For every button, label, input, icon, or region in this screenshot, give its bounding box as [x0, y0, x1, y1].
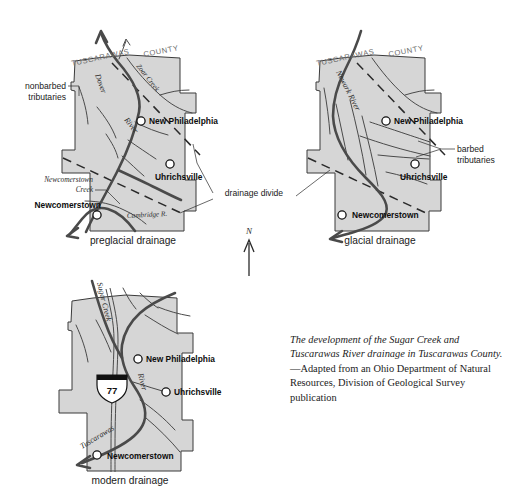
city-label-uhrichsville-modern: Uhrichsville: [174, 387, 222, 397]
annotation-drainage-divide: drainage divide: [225, 188, 284, 198]
city-label-uhrichsville-glacial: Uhrichsville: [400, 172, 448, 182]
city-label-new-philadelphia-modern: New Philadelphia: [146, 354, 215, 364]
annotation-nonbarbed-line2: tributaries: [28, 92, 66, 102]
panel-label-preglacial: preglacial drainage: [90, 235, 176, 246]
city-label-newcomerstown-glacial: Newcomerstown: [352, 210, 419, 220]
city-label-new-philadelphia-glacial: New Philadelphia: [394, 116, 463, 126]
panel-glacial: New Philadelphia Uhrichsville Newcomerst…: [307, 31, 495, 246]
city-label-uhrichsville-preglacial: Uhrichsville: [155, 172, 203, 182]
city-dot-new-philadelphia-preglacial: [137, 117, 145, 125]
caption-source: —Adapted from an Ohio Department of Natu…: [290, 363, 491, 403]
city-dot-new-philadelphia-glacial: [382, 117, 390, 125]
city-label-newcomerstown-preglacial: Newcomerstown: [34, 200, 101, 210]
north-arrow-label: N: [245, 226, 253, 236]
panel-label-glacial: glacial drainage: [344, 235, 416, 246]
city-dot-uhrichsville-preglacial: [166, 160, 174, 168]
city-dot-uhrichsville-modern: [162, 388, 170, 396]
city-dot-uhrichsville-glacial: [411, 160, 419, 168]
city-label-new-philadelphia-preglacial: New Philadelphia: [149, 116, 218, 126]
figure-caption: The development of the Sugar Creek and T…: [290, 333, 508, 405]
annotation-newcomerstown-creek-line2: Creek: [76, 185, 94, 194]
city-dot-newcomerstown-preglacial: [93, 211, 101, 219]
city-dot-newcomerstown-modern: [93, 451, 101, 459]
city-label-newcomerstown-modern: Newcomerstown: [107, 451, 174, 461]
panel-modern: 77 New Philadelphia Uhrichsville Newcome…: [59, 281, 222, 486]
county-outline-glacial: [307, 55, 441, 231]
drainage-evolution-figure: New Philadelphia Uhrichsville Newcomerst…: [0, 0, 517, 487]
panel-preglacial: New Philadelphia Uhrichsville Newcomerst…: [25, 31, 218, 246]
annotation-barbed-line1: barbed: [457, 144, 484, 154]
shield-top-band: [97, 375, 127, 380]
north-arrow-group: N: [244, 226, 254, 276]
city-dot-new-philadelphia-modern: [134, 355, 142, 363]
leader-drainage-divide-right: [296, 170, 330, 196]
shield-number: 77: [107, 385, 118, 396]
annotation-newcomerstown-creek-line1: Newcomerstown: [43, 175, 93, 184]
annotation-barbed-line2: tributaries: [457, 155, 495, 165]
panel-label-modern: modern drainage: [91, 475, 168, 486]
maps-canvas: New Philadelphia Uhrichsville Newcomerst…: [0, 0, 517, 487]
annotation-nonbarbed-line1: nonbarbed: [25, 81, 66, 91]
caption-emphasis: The development of the Sugar Creek and T…: [290, 334, 502, 359]
city-dot-newcomerstown-glacial: [338, 211, 346, 219]
